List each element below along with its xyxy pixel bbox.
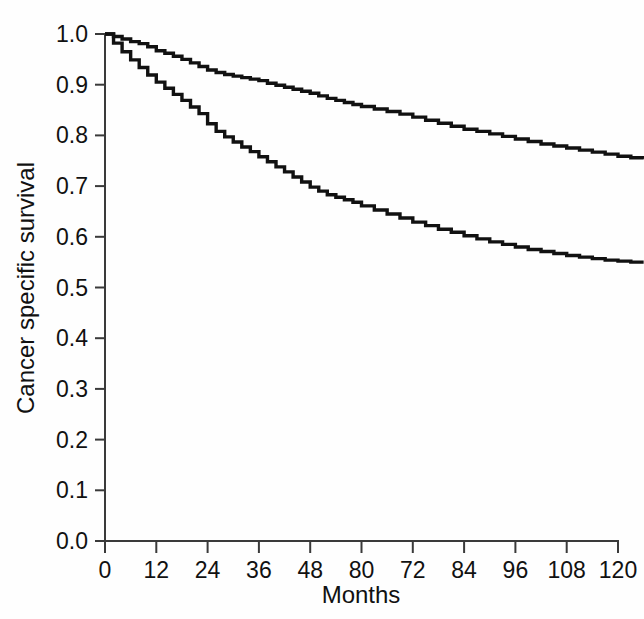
x-tick-label: 12 [144, 557, 170, 583]
x-tick-label: 48 [297, 557, 323, 583]
x-tick-label: 36 [246, 557, 272, 583]
y-tick-label: 1.0 [56, 21, 88, 47]
survival-chart-figure: 0.00.10.20.30.40.50.60.70.80.91.0 012243… [0, 0, 644, 619]
y-axis-ticks [95, 34, 105, 541]
y-tick-label: 0.6 [56, 224, 88, 250]
y-tick-label: 0.4 [56, 325, 88, 351]
lower-survival-curve [105, 34, 644, 262]
y-tick-label: 0.3 [56, 376, 88, 402]
y-tick-label: 0.5 [56, 275, 88, 301]
y-tick-label: 0.1 [56, 477, 88, 503]
y-tick-label: 0.8 [56, 122, 88, 148]
upper-survival-curve [105, 34, 644, 159]
chart-canvas: 0.00.10.20.30.40.50.60.70.80.91.0 012243… [0, 0, 644, 619]
y-tick-label: 0.9 [56, 72, 88, 98]
x-axis-ticks [105, 541, 618, 553]
survival-curves [105, 34, 644, 262]
x-tick-label: 72 [400, 557, 426, 583]
x-axis-label: Months [322, 581, 401, 608]
x-tick-label: 120 [599, 557, 637, 583]
x-tick-label: 0 [99, 557, 112, 583]
x-tick-label: 80 [349, 557, 375, 583]
x-tick-label: 24 [195, 557, 221, 583]
y-tick-label: 0.0 [56, 528, 88, 554]
x-tick-label: 96 [503, 557, 529, 583]
x-axis-tick-labels: 01224364880728496108120 [99, 557, 638, 583]
y-axis-tick-labels: 0.00.10.20.30.40.50.60.70.80.91.0 [56, 21, 88, 554]
x-tick-label: 108 [548, 557, 586, 583]
y-tick-label: 0.2 [56, 427, 88, 453]
y-axis-label: Cancer specific survival [12, 162, 39, 414]
y-tick-label: 0.7 [56, 173, 88, 199]
x-tick-label: 84 [451, 557, 477, 583]
